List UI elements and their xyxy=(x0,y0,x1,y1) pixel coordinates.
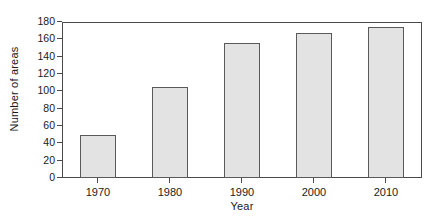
bar xyxy=(296,33,332,178)
x-tick-label: 1970 xyxy=(68,186,128,198)
x-tick-mark xyxy=(241,178,242,183)
y-tick-label: 0 xyxy=(49,171,55,183)
x-tick-label: 1990 xyxy=(212,186,272,198)
y-tick-mark xyxy=(57,160,62,161)
bar-chart-figure: Number of areas 020406080100120140160180… xyxy=(0,0,438,222)
bar xyxy=(80,135,116,178)
y-tick-mark xyxy=(57,38,62,39)
y-tick-label: 100 xyxy=(37,84,55,96)
x-tick-mark xyxy=(169,178,170,183)
y-tick-label: 40 xyxy=(43,136,55,148)
bar xyxy=(368,27,404,178)
y-tick-mark xyxy=(57,90,62,91)
x-tick-label: 1980 xyxy=(140,186,200,198)
x-tick-label: 2010 xyxy=(356,186,416,198)
y-tick-mark xyxy=(57,108,62,109)
x-tick-mark xyxy=(313,178,314,183)
x-tick-mark xyxy=(385,178,386,183)
bar xyxy=(152,87,188,178)
y-tick-mark xyxy=(57,142,62,143)
x-axis-title: Year xyxy=(62,200,422,212)
y-tick-mark xyxy=(57,21,62,22)
y-tick-mark xyxy=(57,125,62,126)
y-tick-mark xyxy=(57,73,62,74)
x-axis-title-text: Year xyxy=(230,200,253,212)
bar xyxy=(224,43,260,178)
x-tick-mark xyxy=(97,178,98,183)
y-tick-label: 180 xyxy=(37,15,55,27)
y-tick-label: 60 xyxy=(43,119,55,131)
y-tick-label: 80 xyxy=(43,102,55,114)
y-tick-mark xyxy=(57,177,62,178)
y-tick-label: 160 xyxy=(37,32,55,44)
y-axis-title-text: Number of areas xyxy=(8,47,20,132)
x-tick-label: 2000 xyxy=(284,186,344,198)
y-tick-label: 140 xyxy=(37,50,55,62)
y-tick-mark xyxy=(57,56,62,57)
y-axis-title: Number of areas xyxy=(6,0,22,178)
y-tick-label: 120 xyxy=(37,67,55,79)
y-tick-label: 20 xyxy=(43,154,55,166)
